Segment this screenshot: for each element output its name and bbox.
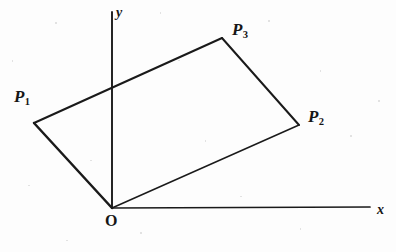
point-label-p2-base: P (308, 107, 318, 126)
point-label-p2: P2 (308, 108, 324, 125)
x-axis-label: x (377, 203, 384, 217)
point-label-p1-base: P (14, 87, 24, 106)
edge-p2-to-origin (112, 125, 299, 208)
point-label-p1-subscript: 1 (25, 96, 30, 107)
geometry-diagram-svg (0, 0, 396, 252)
point-label-p3: P3 (232, 21, 248, 38)
point-label-p2-subscript: 2 (319, 116, 324, 127)
edge-p1-to-p3 (34, 38, 222, 123)
point-label-p3-base: P (232, 20, 242, 39)
point-label-p3-subscript: 3 (243, 29, 248, 40)
point-label-p1: P1 (14, 88, 30, 105)
figure-canvas: P1 P3 P2 y x O (0, 0, 396, 252)
origin-label: O (105, 213, 117, 229)
x-axis-line (112, 207, 370, 208)
edge-origin-to-p1 (34, 123, 112, 208)
edge-p3-to-p2 (222, 38, 299, 125)
y-axis-label: y (116, 6, 122, 20)
